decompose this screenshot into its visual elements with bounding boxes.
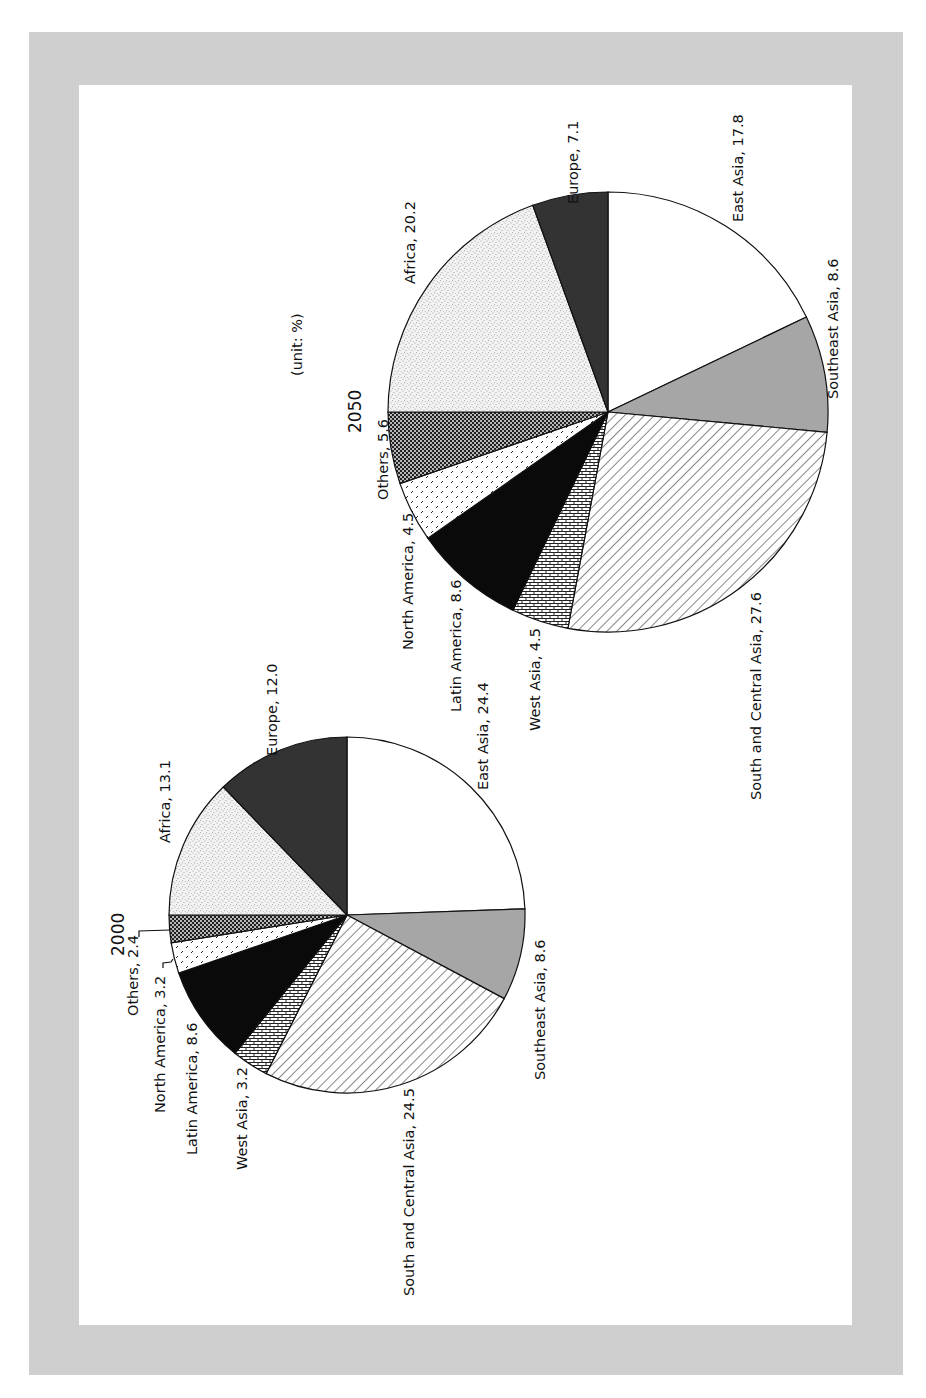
label-2000-southeast-asia: Southeast Asia, 8.6 — [532, 940, 548, 1080]
pie-2050 — [388, 192, 828, 632]
leader-line-north-america-2000 — [163, 959, 173, 968]
unit-label: (unit: %) — [289, 313, 305, 376]
title-2050: 2050 — [345, 390, 365, 433]
label-2050-africa: Africa, 20.2 — [402, 201, 418, 284]
label-2000-latin-america: Latin America, 8.6 — [184, 1022, 200, 1155]
label-2050-europe: Europe, 7.1 — [565, 121, 581, 204]
label-2000-south-central-asia: South and Central Asia, 24.5 — [401, 1088, 417, 1296]
leader-line-others-2000 — [139, 930, 170, 937]
label-2050-east-asia: East Asia, 17.8 — [730, 114, 746, 222]
label-2000-west-asia: West Asia, 3.2 — [234, 1067, 250, 1170]
slice-2050-south-central-asia — [568, 412, 827, 632]
label-2000-north-america: North America, 3.2 — [152, 976, 168, 1113]
label-2050-south-central-asia: South and Central Asia, 27.6 — [748, 592, 764, 800]
label-2000-europe: Europe, 12.0 — [264, 664, 280, 757]
label-2050-southeast-asia: Southeast Asia, 8.6 — [825, 259, 841, 399]
pie-2000 — [169, 737, 525, 1093]
label-2050-north-america: North America, 4.5 — [400, 513, 416, 650]
label-2050-west-asia: West Asia, 4.5 — [527, 628, 543, 731]
slice-2000-east-asia — [347, 737, 525, 915]
pie-charts: (unit: %) 2050 Europe, 7.1 East Asia, 17… — [0, 0, 926, 1398]
label-2050-latin-america: Latin America, 8.6 — [448, 579, 464, 712]
label-2050-others: Others, 5.6 — [375, 419, 391, 500]
label-2000-others: Others, 2.4 — [125, 935, 141, 1016]
label-2000-east-asia: East Asia, 24.4 — [475, 682, 491, 790]
label-2000-africa: Africa, 13.1 — [157, 760, 173, 843]
